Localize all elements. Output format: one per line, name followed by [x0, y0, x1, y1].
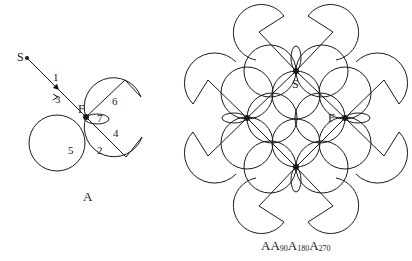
diagram-canvas — [0, 0, 412, 261]
step-2-label: 2 — [97, 145, 103, 156]
caption-a: A — [83, 190, 92, 203]
diagram-b — [184, 5, 407, 234]
step-4-label: 4 — [113, 128, 119, 139]
node-s-label: S — [17, 51, 24, 63]
node-s-label-b: S — [292, 78, 299, 90]
node-f-label: F — [78, 103, 85, 115]
step-7-label: 7 — [97, 113, 103, 124]
step-1-label: 1 — [53, 72, 59, 83]
node-f-label-b: F — [328, 112, 335, 124]
step-6-label: 6 — [112, 96, 118, 107]
caption-b: AA90A180A270 — [261, 239, 331, 253]
step-3-label: 3 — [55, 94, 61, 105]
step-5-label: 5 — [68, 145, 74, 156]
